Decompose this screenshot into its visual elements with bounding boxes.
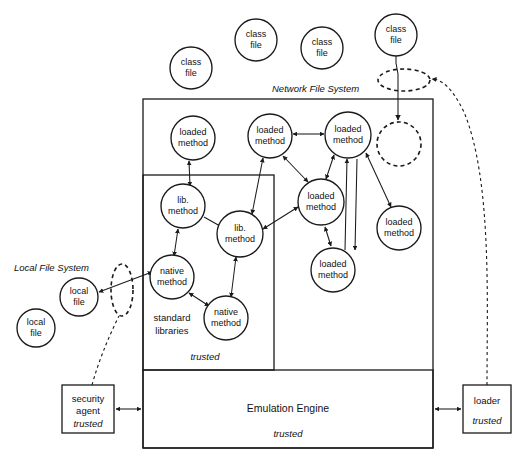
class-file-label-line2: file bbox=[250, 40, 262, 50]
lib-method-label-line2: method bbox=[168, 206, 198, 216]
local-file-label-line1: local bbox=[70, 286, 89, 296]
loaded-method-label-line2: method bbox=[255, 136, 285, 146]
loaded-method-label-line1: loaded bbox=[319, 259, 346, 269]
edge-lm2-lm4 bbox=[283, 156, 308, 182]
class-file-label-line1: class bbox=[386, 24, 407, 34]
loaded-method-label-line1: loaded bbox=[307, 191, 334, 201]
diagram-canvas: class file class file class file class f… bbox=[0, 0, 524, 462]
edge-lm3-lm6 bbox=[366, 153, 391, 207]
native-method-label-line1: native bbox=[160, 266, 184, 276]
edge-lm4-lm5 bbox=[325, 227, 331, 246]
standard-libraries-label-line2: libraries bbox=[155, 325, 189, 336]
local-transfer-ellipse bbox=[111, 264, 133, 316]
standard-libraries-label-line1: standard bbox=[154, 312, 191, 323]
class-file-label-line1: class bbox=[312, 37, 333, 47]
edge-libm2-nm2 bbox=[231, 257, 236, 297]
edge-lm3-lm4 bbox=[326, 155, 334, 179]
native-method-label-line2: method bbox=[211, 318, 241, 328]
loaded-method-label-line1: loaded bbox=[334, 124, 361, 134]
native-method-label-line2: method bbox=[157, 277, 187, 287]
edge-nm1-localfile bbox=[99, 272, 152, 292]
edge-loader-to-nfs bbox=[432, 79, 487, 385]
loaded-method-label-line2: method bbox=[306, 202, 336, 212]
edge-libm2-lm4 bbox=[263, 207, 298, 229]
loaded-method-node: loaded method bbox=[248, 114, 292, 158]
edge-libm1-libm2 bbox=[204, 217, 220, 226]
lib-method-label-line2: method bbox=[225, 234, 255, 244]
class-file-label-line2: file bbox=[316, 48, 328, 58]
local-file-node: local file bbox=[60, 278, 98, 316]
lib-method-label-line1: lib. bbox=[177, 195, 189, 205]
loaded-method-label-line2: method bbox=[333, 135, 363, 145]
lib-method-node: lib. method bbox=[217, 211, 263, 257]
edge-lm5-lm3-up bbox=[345, 159, 347, 250]
network-transfer-ellipse bbox=[378, 69, 430, 91]
class-file-node: class file bbox=[235, 19, 277, 61]
edge-securityagent-to-lfs bbox=[92, 316, 119, 385]
class-file-node: class file bbox=[170, 47, 212, 89]
loaded-method-label-line1: loaded bbox=[385, 217, 412, 227]
edge-libm1-nm1 bbox=[174, 229, 178, 256]
architecture-diagram: class file class file class file class f… bbox=[0, 0, 524, 462]
empty-loaded-slot bbox=[377, 122, 421, 166]
local-file-label-line1: local bbox=[27, 317, 46, 327]
loader-label: loader bbox=[474, 395, 500, 406]
security-agent-label-line2: agent bbox=[76, 405, 100, 416]
local-file-system-label: Local File System bbox=[14, 262, 89, 273]
class-file-node: class file bbox=[375, 14, 417, 56]
edge-lm1-libm1 bbox=[189, 161, 190, 186]
native-method-label-line1: native bbox=[214, 307, 238, 317]
emulation-engine-trusted-label: trusted bbox=[273, 428, 303, 439]
loaded-method-label-line1: loaded bbox=[256, 125, 283, 135]
native-method-node: native method bbox=[150, 255, 194, 299]
edge-classfile-to-slot bbox=[396, 56, 398, 120]
security-agent-label-line1: security bbox=[72, 393, 105, 404]
local-file-node: local file bbox=[17, 309, 55, 347]
loaded-method-label-line2: method bbox=[318, 270, 348, 280]
class-file-node: class file bbox=[301, 27, 343, 69]
class-file-label-line1: class bbox=[246, 29, 267, 39]
native-method-node: native method bbox=[204, 296, 248, 340]
loaded-method-label-line2: method bbox=[384, 228, 414, 238]
network-file-system-label: Network File System bbox=[272, 83, 359, 94]
security-agent-trusted-label: trusted bbox=[73, 418, 103, 429]
loaded-method-node: loaded method bbox=[377, 206, 421, 250]
loaded-method-node: loaded method bbox=[298, 179, 344, 225]
loader-trusted-label: trusted bbox=[472, 415, 502, 426]
lib-method-label-line1: lib. bbox=[234, 223, 246, 233]
edge-lm3-lm5-down bbox=[355, 159, 357, 250]
loaded-method-node: loaded method bbox=[325, 112, 371, 158]
lib-method-node: lib. method bbox=[161, 184, 205, 228]
loaded-method-label-line1: loaded bbox=[179, 127, 206, 137]
local-file-label-line2: file bbox=[30, 328, 42, 338]
edge-lm2-libm2 bbox=[252, 158, 263, 214]
standard-libraries-trusted-label: trusted bbox=[190, 351, 220, 362]
edge-nm1-nm2 bbox=[189, 293, 209, 306]
class-file-label-line1: class bbox=[181, 57, 202, 67]
loaded-method-node: loaded method bbox=[171, 116, 215, 160]
loaded-method-label-line2: method bbox=[178, 138, 208, 148]
class-file-label-line2: file bbox=[185, 68, 197, 78]
emulation-engine-label: Emulation Engine bbox=[247, 402, 329, 414]
class-file-label-line2: file bbox=[390, 35, 402, 45]
loaded-method-node: loaded method bbox=[311, 248, 355, 292]
local-file-label-line2: file bbox=[73, 297, 85, 307]
